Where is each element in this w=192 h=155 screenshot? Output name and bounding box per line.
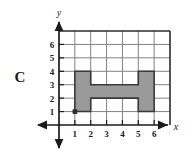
y-axis-label: y — [56, 7, 62, 18]
x-tick-label: 2 — [88, 129, 93, 139]
x-tick-label: 4 — [120, 129, 125, 139]
x-tick-label: 3 — [104, 129, 109, 139]
h-shaped-polygon — [75, 71, 154, 111]
x-tick-label: 1 — [73, 129, 78, 139]
figure-label: C — [15, 69, 26, 85]
y-tick-label: 2 — [50, 94, 55, 104]
x-tick-label: 6 — [152, 129, 157, 139]
vertex-marker-1-2 — [73, 109, 78, 114]
coordinate-grid-figure: 1 2 3 4 5 6 1 2 3 4 5 6 x y C — [0, 0, 192, 155]
y-tick-label: 6 — [50, 40, 55, 50]
y-tick-label: 3 — [50, 80, 55, 90]
x-tick-labels: 1 2 3 4 5 6 — [73, 129, 157, 139]
y-tick-labels: 1 2 3 4 5 6 — [50, 40, 55, 117]
x-axis-label: x — [173, 121, 179, 132]
y-tick-label: 5 — [50, 53, 55, 63]
y-tick-label: 4 — [50, 67, 55, 77]
x-tick-label: 5 — [136, 129, 141, 139]
y-tick-label: 1 — [50, 107, 55, 117]
